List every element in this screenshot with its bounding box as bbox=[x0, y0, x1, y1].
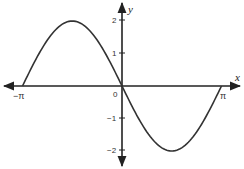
sine-graph: 2 1 −1 −2 −π 0 π x y bbox=[0, 0, 244, 169]
y-tick-label-neg1: −1 bbox=[107, 114, 117, 123]
y-tick-label-neg2: −2 bbox=[107, 146, 117, 155]
y-tick-label-2: 2 bbox=[112, 16, 117, 25]
y-tick-label-1: 1 bbox=[112, 49, 117, 58]
x-axis-label: x bbox=[234, 71, 240, 83]
x-tick-label-pi: π bbox=[220, 91, 226, 101]
x-tick-label-neg-pi: −π bbox=[13, 91, 24, 101]
x-tick-label-zero: 0 bbox=[113, 90, 118, 99]
y-axis-label: y bbox=[127, 3, 133, 15]
